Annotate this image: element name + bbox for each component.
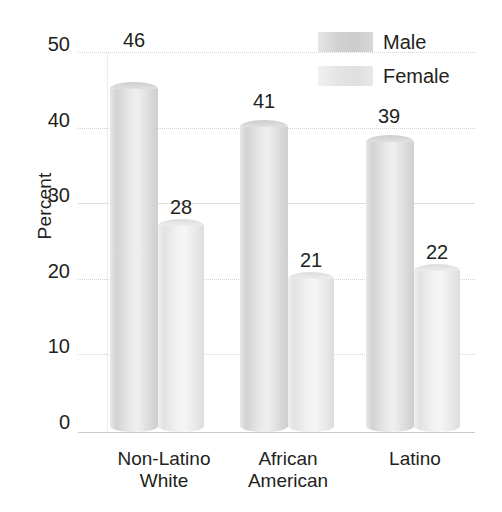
y-tick-label-0: 0: [24, 412, 70, 432]
y-tick-label-50: 50: [24, 34, 70, 54]
bar-non-latino-white-male: [110, 82, 158, 432]
plot-area: 46 28 41 21 39 22: [78, 52, 475, 432]
x-axis-baseline: [78, 432, 475, 433]
bar-value-non-latino-white-female: 28: [151, 197, 211, 217]
bar-value-non-latino-white-male: 46: [104, 30, 164, 50]
x-category-line1: Latino: [345, 448, 485, 470]
bar-body: [110, 89, 158, 432]
y-tick-label-40: 40: [24, 110, 70, 130]
legend: Male Female: [318, 27, 478, 95]
x-category-line1: African: [218, 448, 358, 470]
x-category-line1: Non-Latino: [94, 448, 234, 470]
bar-body: [366, 142, 414, 432]
bar-body: [288, 279, 334, 432]
bar-african-american-male: [240, 120, 288, 432]
bar-latino-female: [414, 264, 460, 432]
bar-body: [158, 226, 204, 432]
legend-item-male[interactable]: Male: [318, 27, 478, 57]
x-category-label-african-american: African American: [218, 448, 358, 492]
bar-value-latino-female: 22: [407, 242, 467, 262]
bar-african-american-female: [288, 272, 334, 432]
bar-value-african-american-male: 41: [234, 91, 294, 111]
legend-swatch-female-icon: [318, 66, 373, 86]
bar-body: [240, 127, 288, 432]
bar-value-latino-male: 39: [359, 106, 419, 126]
y-tick-label-20: 20: [24, 261, 70, 281]
bar-non-latino-white-female: [158, 219, 204, 432]
bar-body: [414, 271, 460, 432]
bar-value-african-american-female: 21: [281, 250, 341, 270]
x-category-line2: American: [218, 470, 358, 492]
x-category-label-latino: Latino: [345, 448, 485, 470]
y-tick-label-30: 30: [24, 185, 70, 205]
x-category-line2: White: [94, 470, 234, 492]
x-category-label-non-latino-white: Non-Latino White: [94, 448, 234, 492]
legend-swatch-male-icon: [318, 32, 373, 52]
legend-label-male: Male: [383, 32, 426, 52]
y-axis-title: Percent: [34, 161, 56, 251]
bar-latino-male: [366, 135, 414, 432]
bar-chart: Percent 50 40 30 20 10 0 46 28 41: [0, 0, 502, 512]
legend-item-female[interactable]: Female: [318, 61, 478, 91]
legend-label-female: Female: [383, 66, 450, 86]
plot-left-border: [107, 52, 108, 432]
y-tick-label-10: 10: [24, 336, 70, 356]
